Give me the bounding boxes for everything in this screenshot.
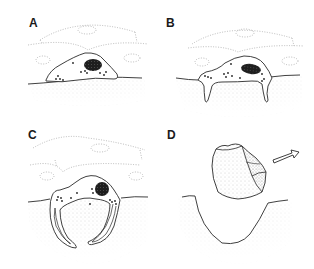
direction-arrow-icon [273, 150, 299, 163]
panel-label-a: A [29, 17, 38, 29]
panel-d [178, 144, 299, 264]
nucleus [95, 182, 109, 196]
overlying-cells-dotted [30, 136, 145, 180]
cell-body [46, 53, 118, 82]
panel-label-d: D [167, 129, 176, 141]
panel-label-c: C [28, 129, 37, 141]
figure-canvas [0, 0, 314, 269]
panel-label-b: B [166, 17, 175, 29]
nucleus [84, 59, 102, 71]
panel-a [28, 25, 148, 106]
panel-c [28, 136, 148, 263]
panel-b [176, 29, 304, 117]
